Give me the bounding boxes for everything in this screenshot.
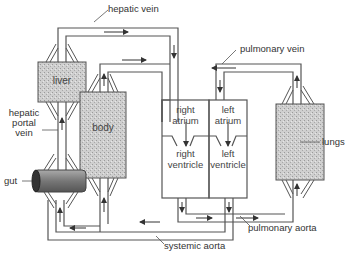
hepatic-portal-vein-label: hepatic portal vein (6, 108, 42, 138)
systemic-aorta-label: systemic aorta (164, 241, 225, 251)
circulatory-diagram: hepatic vein pulmonary vein hepatic port… (0, 0, 348, 255)
pulmonary-vein-label: pulmonary vein (240, 44, 304, 54)
pulmonary-aorta-label: pulmonary aorta (248, 223, 317, 233)
left-ventricle-label: left ventricle (209, 148, 247, 170)
hepatic-vein-label: hepatic vein (108, 4, 159, 14)
body-box (80, 92, 126, 178)
liver-label: liver (38, 75, 86, 86)
body-label: body (80, 122, 126, 133)
lungs-label: lungs (322, 137, 345, 147)
diagram-canvas (0, 0, 348, 255)
left-atrium-label: left atrium (209, 104, 247, 126)
right-ventricle-label: right ventricle (162, 148, 209, 170)
right-atrium-label: right atrium (162, 104, 209, 126)
gut-label: gut (4, 176, 17, 186)
gut-tube (34, 170, 86, 192)
